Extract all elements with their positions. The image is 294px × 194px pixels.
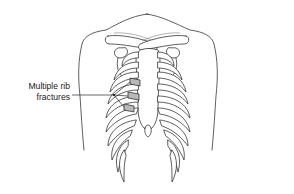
left-ribs bbox=[158, 52, 190, 182]
sternum bbox=[136, 49, 160, 138]
fractured-ribs bbox=[124, 78, 140, 112]
rib-cage-illustration bbox=[0, 0, 294, 194]
clavicles bbox=[105, 33, 189, 50]
rib-fracture-diagram: Multiple rib fractures bbox=[0, 0, 294, 194]
leader-junction-dot bbox=[113, 94, 115, 96]
right-ribs bbox=[106, 52, 138, 182]
